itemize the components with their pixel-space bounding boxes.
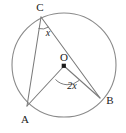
vertex-label-B: B — [106, 94, 113, 106]
vertex-label-A: A — [21, 113, 29, 125]
circle-theorem-diagram: C A B O x 2x — [0, 0, 126, 133]
center-label-O: O — [60, 51, 68, 63]
geometry-canvas: C A B O x 2x — [0, 0, 126, 133]
center-point-marker — [62, 64, 66, 68]
vertex-label-C: C — [36, 1, 43, 13]
angle-label-2x: 2x — [67, 80, 77, 91]
angle-label-x: x — [45, 27, 51, 38]
